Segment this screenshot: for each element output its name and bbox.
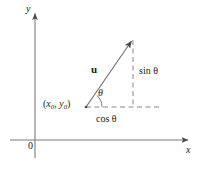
paren-close: ) bbox=[67, 98, 70, 109]
sin-theta-label: sin θ bbox=[139, 66, 158, 76]
figure-canvas: y x 0 u (x0, y0) θ cos θ sin θ bbox=[0, 0, 204, 173]
y-axis-label: y bbox=[26, 4, 30, 14]
origin-label: 0 bbox=[28, 141, 33, 151]
vector-base-point bbox=[85, 106, 88, 109]
x-axis-label: x bbox=[186, 145, 190, 155]
cos-theta-label: cos θ bbox=[96, 114, 117, 124]
base-point-coordinates-label: (x0, y0) bbox=[43, 99, 70, 111]
theta-angle-label: θ bbox=[98, 88, 103, 98]
vector-u-label: u bbox=[91, 64, 97, 75]
